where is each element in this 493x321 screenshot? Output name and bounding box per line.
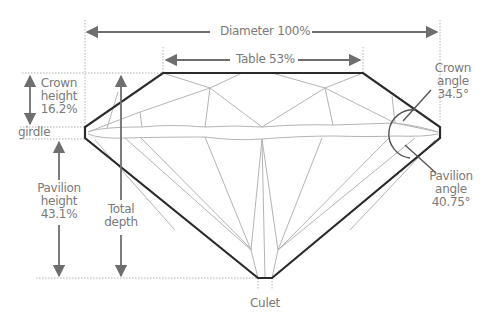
diameter-label: Diameter 100% — [218, 25, 312, 38]
crown-angle-label: Crown angle 34.5° — [430, 62, 476, 101]
table-label: Table 53% — [234, 53, 297, 66]
girdle-label: girdle — [18, 126, 50, 139]
crown-height-label: Crown height 16.2% — [38, 77, 80, 116]
diamond-diagram — [0, 0, 493, 321]
facet-lines — [88, 73, 438, 278]
pavilion-height-label: Pavilion height 43.1% — [36, 182, 82, 221]
culet-label: Culet — [250, 297, 280, 310]
total-depth-label: Total depth — [102, 203, 140, 229]
dimension-arrows — [30, 32, 437, 276]
pavilion-angle-label: Pavilion angle 40.75° — [427, 170, 475, 209]
